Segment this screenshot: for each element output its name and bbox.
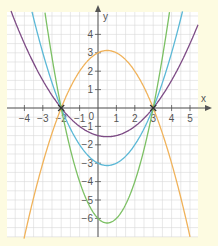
- x-axis-label: x: [201, 93, 206, 104]
- y-tick-label: −5: [82, 195, 94, 206]
- x-tick-label: −4: [19, 113, 31, 124]
- origin-label: 0: [88, 111, 94, 122]
- parabola-chart: −4−3−2−112345−6−5−4−3−2−11234 x y 0: [0, 0, 218, 246]
- y-tick-label: −6: [82, 213, 94, 224]
- x-tick-label: 5: [187, 113, 193, 124]
- y-tick-label: −4: [82, 176, 94, 187]
- y-tick-label: −2: [82, 139, 94, 150]
- y-axis-label: y: [103, 11, 108, 22]
- x-tick-label: 1: [114, 113, 120, 124]
- x-axis-arrow-icon: [205, 105, 212, 111]
- y-tick-label: −1: [82, 121, 94, 132]
- y-tick-label: 4: [87, 29, 93, 40]
- x-tick-label: 2: [132, 113, 138, 124]
- plot-area: [7, 12, 198, 237]
- y-tick-label: 1: [87, 84, 93, 95]
- y-axis-arrow-icon: [95, 5, 101, 12]
- y-tick-label: 2: [87, 66, 93, 77]
- x-tick-label: −3: [37, 113, 49, 124]
- x-tick-label: 4: [169, 113, 175, 124]
